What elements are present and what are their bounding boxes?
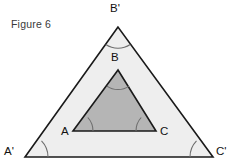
vertex-label-b-prime: B'	[110, 3, 120, 15]
figure-caption: Figure 6	[11, 18, 51, 30]
vertex-label-c: C	[160, 126, 168, 138]
vertex-label-c-prime: C'	[216, 146, 227, 158]
vertex-label-a-prime: A'	[4, 146, 14, 158]
vertex-label-a: A	[61, 126, 69, 138]
figure-container: Figure 6 B' A' C' B A C	[0, 0, 236, 166]
vertex-label-b: B	[111, 52, 119, 64]
